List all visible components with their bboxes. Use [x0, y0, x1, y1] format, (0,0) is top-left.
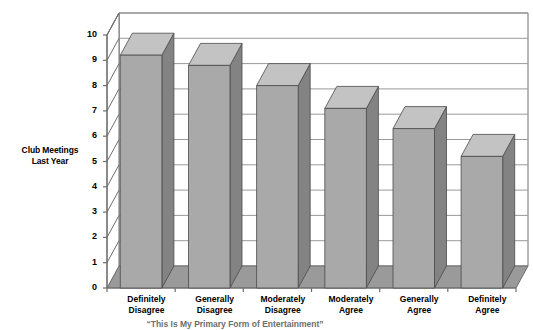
bar-front-face — [189, 65, 231, 288]
x-axis-category-label: ModeratelyAgree — [314, 294, 388, 315]
x-axis-category-label: GenerallyAgree — [382, 294, 456, 315]
bar-side-face — [162, 33, 174, 288]
bar-front-face — [393, 129, 435, 288]
y-axis-tick-label: 10 — [81, 30, 97, 39]
x-axis-category-label-line-1: Moderately — [314, 294, 388, 305]
bar-front-face — [461, 156, 503, 288]
x-axis-category-label-line-2: Disagree — [109, 305, 183, 316]
bar-side-face — [435, 107, 447, 288]
x-axis-category-label-line-1: Definitely — [450, 294, 524, 305]
bar-side-face — [503, 134, 515, 288]
y-axis-tick-label: 2 — [81, 232, 97, 241]
x-axis-category-label-line-1: Generally — [382, 294, 456, 305]
bar-front-face — [120, 55, 162, 288]
x-axis-category-label-line-1: Definitely — [109, 294, 183, 305]
x-axis-category-label: ModeratelyDisagree — [246, 294, 320, 315]
x-axis-category-label-line-2: Disagree — [178, 305, 252, 316]
x-axis-category-label: DefinitelyAgree — [450, 294, 524, 315]
y-axis-tick-label: 7 — [81, 106, 97, 115]
y-axis-tick-label: 1 — [81, 258, 97, 267]
chart-caption: “This Is My Primary Form of Entertainmen… — [0, 319, 470, 329]
bar-side-face — [366, 86, 378, 288]
x-axis-category-label-line-1: Generally — [178, 294, 252, 305]
chart-svg — [0, 0, 533, 330]
y-axis-tick-label: 9 — [81, 55, 97, 64]
bar-side-face — [298, 64, 310, 288]
y-axis-tick-label: 8 — [81, 81, 97, 90]
y-axis-tick-label: 6 — [81, 131, 97, 140]
y-axis-tick-label: 3 — [81, 207, 97, 216]
y-axis-tick-label: 5 — [81, 157, 97, 166]
y-axis-tick-label: 4 — [81, 182, 97, 191]
plot-area — [0, 0, 533, 330]
y-axis-tick-label: 0 — [81, 283, 97, 292]
bar-side-face — [230, 43, 242, 288]
x-axis-category-label-line-2: Disagree — [246, 305, 320, 316]
x-axis-category-label-line-2: Agree — [450, 305, 524, 316]
x-axis-category-label: GenerallyDisagree — [178, 294, 252, 315]
x-axis-category-label-line-1: Moderately — [246, 294, 320, 305]
x-axis-category-label-line-2: Agree — [382, 305, 456, 316]
bar-front-face — [325, 108, 367, 288]
x-axis-category-label-line-2: Agree — [314, 305, 388, 316]
chart-container: Club Meetings Last Year 012345678910 Def… — [0, 0, 533, 330]
bar-front-face — [257, 86, 299, 288]
x-axis-category-label: DefinitelyDisagree — [109, 294, 183, 315]
